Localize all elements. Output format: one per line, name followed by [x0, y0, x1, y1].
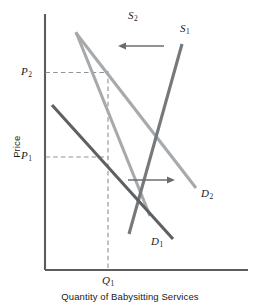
supply-demand-chart: S2 S1 D2 D1 P2 P1 Q1 Price Quantity of B…	[0, 0, 260, 308]
y-tick-label-p2: P2	[21, 66, 31, 77]
y-tick-label-p1: P1	[21, 150, 31, 161]
x-tick-label-q1: Q1	[102, 275, 114, 286]
x-axis-title: Quantity of Babysitting Services	[0, 292, 260, 302]
chart-plot-area	[0, 0, 260, 308]
curve-label-s2: S2	[128, 10, 137, 21]
supply-curve-s1	[129, 44, 182, 234]
curve-label-d1: D1	[151, 236, 163, 247]
curve-label-s1: S1	[180, 23, 189, 34]
y-axis-title: Price	[12, 119, 22, 175]
curve-label-d2: D2	[201, 188, 213, 199]
supply-shift-arrow	[118, 43, 164, 50]
supply-curve-s2	[76, 32, 150, 216]
